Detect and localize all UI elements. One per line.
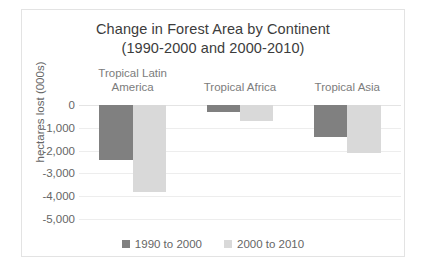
legend-item-2000-to-2010[interactable]: 2000 to 2010 [224,238,304,250]
category-label-line: Tropical Africa [186,80,293,94]
legend-item-1990-to-2000[interactable]: 1990 to 2000 [122,238,202,250]
chart-container: Change in Forest Area by Continent (1990… [21,9,405,257]
y-tick-label: -3,000 [42,167,75,179]
bar-tropical-asia-1990-to-2000 [314,105,347,137]
chart-title-line-1: Change in Forest Area by Continent [96,21,330,37]
category-label-tropical-asia: Tropical Asia [294,80,401,94]
y-tick-label: -2,000 [42,145,75,157]
gridline [79,219,401,220]
y-tick-label: -5,000 [42,213,75,225]
chart-legend: 1990 to 2000 2000 to 2010 [22,238,404,250]
y-tick-label: 0 [69,99,75,111]
category-label-tropical-latin-america: Tropical Latin America [79,66,186,94]
category-label-tropical-africa: Tropical Africa [186,80,293,94]
chart-title: Change in Forest Area by Continent (1990… [22,20,404,58]
category-label-line: Tropical Asia [294,80,401,94]
legend-swatch-icon [224,240,232,248]
bar-tropical-africa-2000-to-2010 [240,105,273,121]
legend-label: 2000 to 2010 [237,238,304,250]
y-tick-label: -1,000 [42,122,75,134]
legend-swatch-icon [122,240,130,248]
bar-tropical-latin-america-2000-to-2010 [133,105,166,192]
bar-tropical-africa-1990-to-2000 [207,105,240,112]
category-label-line: Tropical Latin [79,66,186,80]
plot-area [79,105,401,219]
y-tick-label: -4,000 [42,190,75,202]
chart-title-line-2: (1990-2000 and 2000-2010) [22,39,404,58]
legend-label: 1990 to 2000 [135,238,202,250]
category-label-line: America [79,80,186,94]
gridline [79,196,401,197]
y-axis-tick-labels: 0 -1,000 -2,000 -3,000 -4,000 -5,000 [31,105,75,219]
bar-tropical-asia-2000-to-2010 [347,105,380,153]
bar-tropical-latin-america-1990-to-2000 [99,105,132,160]
gridline [79,173,401,174]
category-axis-labels: Tropical Latin America Tropical Africa T… [79,66,401,104]
